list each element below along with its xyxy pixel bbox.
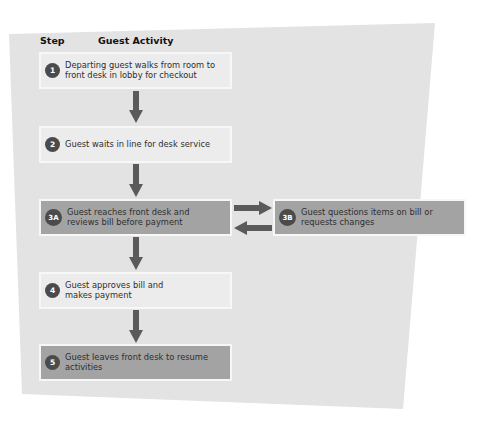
header-guest-activity: Guest Activity: [98, 35, 173, 46]
step-1-box: 1 Departing guest walks from room tofron…: [39, 52, 232, 89]
step-1-text: Departing guest walks from room tofront …: [65, 61, 215, 80]
step-3a-text: Guest reaches front desk andreviews bill…: [67, 208, 189, 227]
header-step: Step: [40, 35, 65, 46]
step-3a-badge: 3A: [45, 209, 62, 226]
step-2-text: Guest waits in line for desk service: [65, 140, 210, 150]
step-5-text: Guest leaves front desk to resumeactivit…: [65, 353, 208, 372]
arrow-left-icon: [234, 221, 272, 235]
step-1-badge: 1: [45, 63, 60, 78]
step-3b-badge: 3B: [279, 209, 296, 226]
step-5-badge: 5: [45, 355, 60, 370]
step-4-box: 4 Guest approves bill andmakes payment: [39, 272, 232, 309]
step-2-badge: 2: [45, 137, 60, 152]
step-3b-text: Guest questions items on bill orrequests…: [301, 208, 433, 227]
step-4-badge: 4: [45, 283, 60, 298]
arrow-down-icon: [129, 237, 143, 271]
arrow-down-icon: [129, 164, 143, 198]
step-3b-box: 3B Guest questions items on bill orreque…: [273, 199, 466, 236]
arrow-down-icon: [129, 310, 143, 344]
arrow-down-icon: [129, 91, 143, 124]
step-5-box: 5 Guest leaves front desk to resumeactiv…: [39, 344, 232, 381]
arrow-right-icon: [234, 201, 272, 215]
step-4-text: Guest approves bill andmakes payment: [65, 281, 163, 300]
step-3a-box: 3A Guest reaches front desk andreviews b…: [39, 199, 232, 236]
step-2-box: 2 Guest waits in line for desk service: [39, 126, 232, 163]
